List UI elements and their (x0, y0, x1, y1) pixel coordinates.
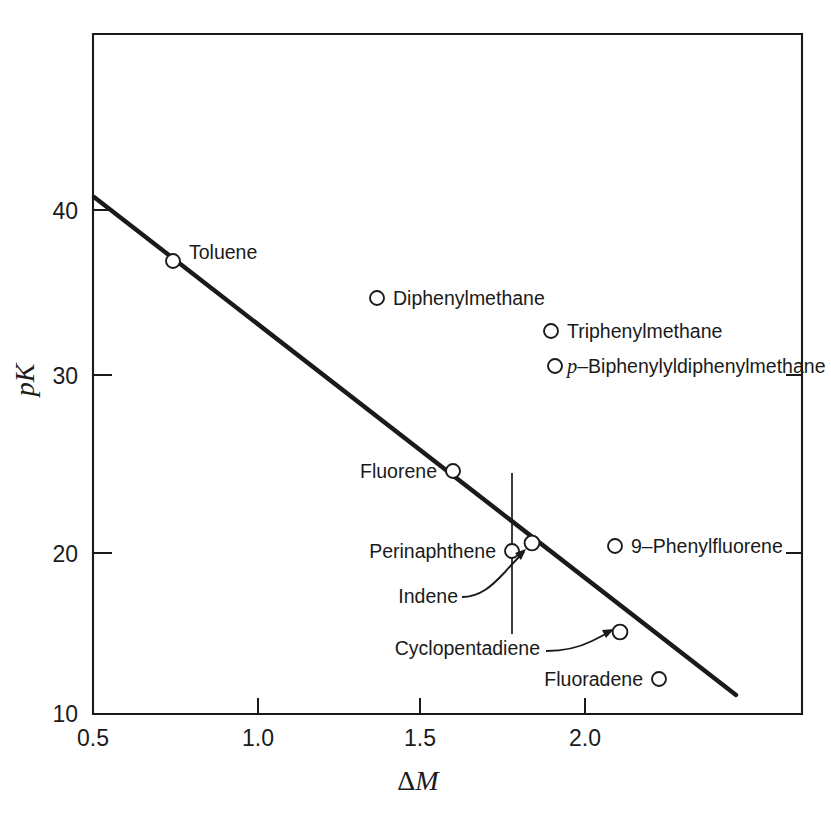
point-label-9-phenylfluorene: 9–Phenylfluorene (631, 535, 783, 557)
y-tick-label-20: 20 (52, 541, 78, 567)
trend-line (94, 197, 736, 695)
point-label-p-biphenylyldiphenylmethane: p–Biphenylyldiphenylmethane (565, 355, 826, 378)
y-axis-ticks (93, 210, 112, 553)
y-tick-labels: 10 20 30 40 (52, 198, 78, 727)
x-tick-labels: 0.5 1.0 1.5 2.0 (77, 725, 601, 751)
marker-cyclopentadiene[interactable] (613, 625, 628, 640)
marker-toluene[interactable] (166, 254, 180, 268)
x-axis-title: ΔM (397, 765, 440, 796)
y-tick-label-40: 40 (52, 198, 78, 224)
marker-9-phenylfluorene[interactable] (608, 539, 622, 553)
point-label-diphenylmethane: Diphenylmethane (393, 287, 545, 309)
x-axis-ticks (258, 698, 585, 714)
marker-fluorene[interactable] (446, 464, 460, 478)
scatter-plot-svg: 0.5 1.0 1.5 2.0 10 20 30 40 ΔM pK (0, 0, 831, 820)
point-label-cyclopentadiene: Cyclopentadiene (395, 637, 540, 659)
right-axis-ticks (786, 375, 802, 553)
marker-perinaphthene[interactable] (505, 544, 519, 558)
point-label-indene: Indene (398, 585, 458, 607)
point-label-toluene: Toluene (189, 241, 257, 263)
y-axis-title: pK (9, 362, 40, 398)
x-tick-label-1-5: 1.5 (404, 725, 436, 751)
marker-diphenylmethane[interactable] (370, 291, 384, 305)
cyclopentadiene-arrow-curve (546, 631, 611, 651)
marker-indene[interactable] (525, 536, 540, 551)
x-tick-label-2-0: 2.0 (569, 725, 601, 751)
cyclopentadiene-arrow (546, 629, 614, 651)
point-label-perinaphthene: Perinaphthene (369, 540, 496, 562)
marker-p-biphenylyldiphenylmethane[interactable] (548, 359, 562, 373)
marker-triphenylmethane[interactable] (544, 324, 558, 338)
figure-container: 0.5 1.0 1.5 2.0 10 20 30 40 ΔM pK (0, 0, 831, 820)
x-tick-label-0-5: 0.5 (77, 725, 109, 751)
y-tick-label-30: 30 (52, 363, 78, 389)
point-label-fluorene: Fluorene (360, 460, 437, 482)
point-label-triphenylmethane: Triphenylmethane (567, 320, 722, 342)
x-tick-label-1-0: 1.0 (242, 725, 274, 751)
y-tick-label-10: 10 (52, 701, 78, 727)
point-label-fluoradene: Fluoradene (544, 668, 643, 690)
marker-fluoradene[interactable] (652, 672, 666, 686)
